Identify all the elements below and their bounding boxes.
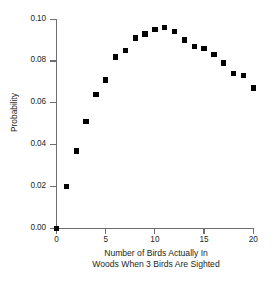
data-point [113,54,118,59]
y-tick-0.08 [50,60,56,61]
data-point [251,85,256,90]
data-point [182,37,187,42]
x-tick-10 [154,229,155,234]
data-point [83,119,88,124]
y-tick-label-wrap: 0.08 [20,56,46,66]
y-tick-0.06 [50,102,56,103]
data-point [103,77,108,82]
y-tick-0.10 [50,19,56,20]
x-tick-label-20: 20 [242,235,264,244]
data-point [201,46,206,51]
data-point [74,148,79,153]
x-tick-15 [203,229,204,234]
y-tick-label-wrap: 0.02 [20,182,46,192]
y-tick-label-0.02: 0.02 [20,182,46,190]
data-point [192,44,197,49]
x-axis-title-line-2: Woods When 3 Birds Are Sighted [38,259,274,270]
x-tick-20 [253,229,254,234]
y-tick-label-wrap: 0.04 [20,140,46,150]
x-axis-title-line-1: Number of Birds Actually In [38,248,274,259]
data-point [162,25,167,30]
y-tick-label-wrap: 0.06 [20,98,46,108]
data-point [93,92,98,97]
data-point [123,48,128,53]
data-point [231,71,236,76]
y-tick-label-0.00: 0.00 [20,224,46,232]
x-tick-5 [105,229,106,234]
probability-scatter-figure: 0.000.020.040.060.080.10 05101520 Probab… [0,0,278,282]
y-axis-line [56,19,57,229]
x-axis-title: Number of Birds Actually In Woods When 3… [38,248,274,271]
data-point [152,27,157,32]
y-tick-0.02 [50,186,56,187]
data-point [142,31,147,36]
x-tick-label-15: 15 [193,235,215,244]
x-tick-label-10: 10 [144,235,166,244]
data-point [133,35,138,40]
y-tick-label-wrap: 0.10 [20,15,46,25]
plot-area: 0.000.020.040.060.080.10 05101520 Probab… [0,0,278,282]
data-point [221,60,226,65]
y-tick-label-wrap: 0.00 [20,224,46,234]
y-tick-0.04 [50,144,56,145]
data-point [64,184,69,189]
data-point [54,226,59,231]
data-point [172,29,177,34]
y-tick-label-0.08: 0.08 [20,56,46,64]
y-axis-title: Probability [10,68,19,158]
y-tick-label-0.04: 0.04 [20,140,46,148]
x-tick-label-5: 5 [95,235,117,244]
data-point [211,52,216,57]
data-point [241,73,246,78]
x-tick-label-0: 0 [46,235,68,244]
y-tick-label-0.10: 0.10 [20,15,46,23]
y-tick-label-0.06: 0.06 [20,98,46,106]
